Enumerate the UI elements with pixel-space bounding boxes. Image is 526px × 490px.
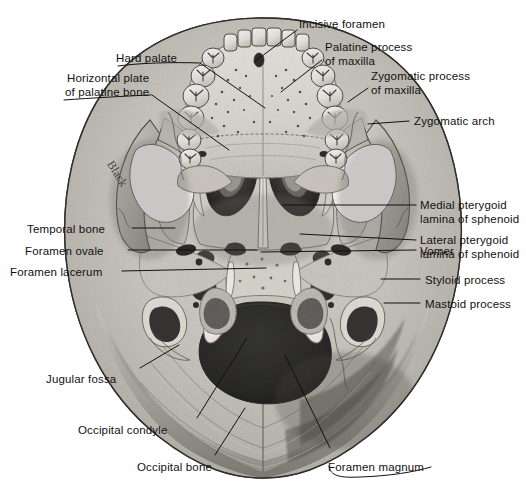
label-jugular-fossa: Jugular fossa [46, 373, 116, 387]
label-line: Foramen ovale [25, 245, 104, 259]
label-line: of maxilla [371, 84, 470, 98]
label-line: Occipital condyle [78, 424, 167, 438]
label-incisive-foramen: Incisive foramen [299, 18, 385, 32]
label-line: Palatine process [325, 41, 412, 55]
label-zygomatic-arch: Zygomatic arch [414, 115, 495, 129]
label-vomer: Vomer [420, 245, 454, 259]
label-foramen-magnum: Foramen magnum [328, 461, 424, 475]
label-occipital-condyle: Occipital condyle [78, 424, 167, 438]
label-line: Mastoid process [425, 298, 511, 312]
label-line: Horizontal plate [65, 72, 149, 86]
label-zygomatic-process-of-maxilla: Zygomatic processof maxilla [371, 70, 470, 97]
label-styloid-process: Styloid process [425, 274, 505, 288]
label-occipital-bone: Occipital bone [137, 461, 212, 475]
label-line: Zygomatic arch [414, 115, 495, 129]
label-line: Styloid process [425, 274, 505, 288]
label-line: of palatine bone [65, 86, 149, 100]
label-medial-pterygoid-lamina-of-sphenoid: Medial pterygoidlamina of sphenoid [420, 199, 519, 226]
label-line: Foramen magnum [328, 461, 424, 475]
label-line: Incisive foramen [299, 18, 385, 32]
label-mastoid-process: Mastoid process [425, 298, 511, 312]
label-line: lamina of sphenoid [420, 213, 519, 227]
label-line: Medial pterygoid [420, 199, 519, 213]
label-hard-palate: Hard palate [116, 52, 177, 66]
label-line: Foramen lacerum [10, 266, 102, 280]
label-line: Jugular fossa [46, 373, 116, 387]
label-foramen-ovale: Foramen ovale [25, 245, 104, 259]
label-horizontal-plate-of-palatine-bone: Horizontal plateof palatine bone [65, 72, 149, 99]
label-line: Temporal bone [27, 223, 105, 237]
label-line: Zygomatic process [371, 70, 470, 84]
label-line: Vomer [420, 245, 454, 259]
label-foramen-lacerum: Foramen lacerum [10, 266, 102, 280]
label-line: of maxilla [325, 55, 412, 69]
label-line: Occipital bone [137, 461, 212, 475]
label-line: Hard palate [116, 52, 177, 66]
label-palatine-process-of-maxilla: Palatine processof maxilla [325, 41, 412, 68]
label-temporal-bone: Temporal bone [27, 223, 105, 237]
